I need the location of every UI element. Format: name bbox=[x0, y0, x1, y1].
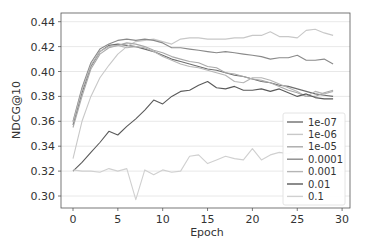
y-tick-label: 0.44 bbox=[31, 16, 56, 29]
x-tick-label: 10 bbox=[156, 213, 170, 226]
x-tick-label: 25 bbox=[290, 213, 304, 226]
x-tick-label: 0 bbox=[70, 213, 77, 226]
legend: 1e-071e-061e-050.00010.0010.010.1 bbox=[283, 113, 345, 205]
y-tick-label: 0.42 bbox=[31, 41, 56, 54]
legend-label: 0.001 bbox=[308, 166, 337, 177]
y-tick-label: 0.30 bbox=[31, 190, 56, 203]
legend-label: 0.1 bbox=[308, 191, 324, 202]
y-tick-label: 0.32 bbox=[31, 165, 56, 178]
y-tick-label: 0.38 bbox=[31, 90, 56, 103]
y-tick-label: 0.34 bbox=[31, 140, 56, 153]
x-tick-label: 20 bbox=[245, 213, 259, 226]
x-axis-label: Epoch bbox=[190, 226, 224, 239]
x-tick-label: 5 bbox=[114, 213, 121, 226]
x-tick-label: 30 bbox=[335, 213, 349, 226]
series-line-0.0001 bbox=[73, 39, 333, 121]
line-chart: 0.300.320.340.360.380.400.420.44 0510152… bbox=[0, 0, 367, 246]
y-tick-label: 0.36 bbox=[31, 115, 56, 128]
legend-label: 1e-07 bbox=[308, 117, 337, 128]
y-axis-ticks: 0.300.320.340.360.380.400.420.44 bbox=[31, 16, 62, 203]
legend-label: 1e-06 bbox=[308, 129, 337, 140]
legend-label: 0.0001 bbox=[308, 154, 343, 165]
y-tick-label: 0.40 bbox=[31, 66, 56, 79]
x-tick-label: 15 bbox=[201, 213, 215, 226]
legend-label: 0.01 bbox=[308, 179, 330, 190]
x-axis-ticks: 051015202530 bbox=[70, 208, 350, 226]
y-axis-label: NDCG@10 bbox=[10, 81, 23, 139]
legend-label: 1e-05 bbox=[308, 141, 337, 152]
